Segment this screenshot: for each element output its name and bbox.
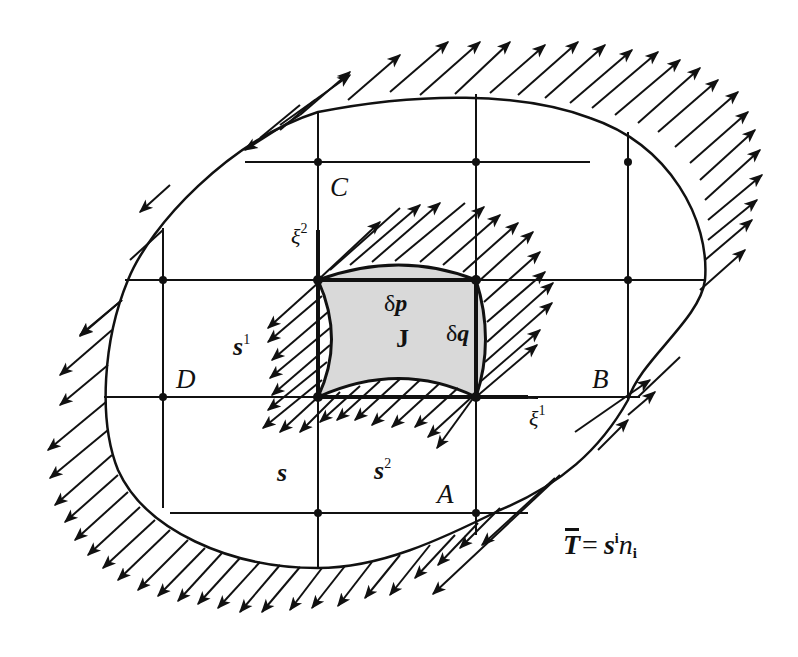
label-s1: s1 [233,333,250,360]
label-delta-p: δp [384,291,407,315]
label-xi1: ξ1 [529,404,545,430]
traction-equation: T=sini [563,531,637,561]
label-point-d: D [176,366,196,393]
label-xi2: ξ2 [291,222,307,248]
label-point-b: B [592,366,609,393]
tangent-arrows [80,75,680,450]
label-s2: s2 [374,457,391,484]
label-s: s [277,460,287,486]
label-point-c: C [330,174,348,201]
label-delta-q: δq [446,321,469,345]
traction-t: T [563,531,580,559]
label-point-a: A [437,481,454,508]
label-jacobian: J [396,326,409,352]
